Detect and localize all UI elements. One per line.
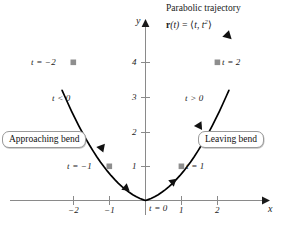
- trajectory-equation: r(t) = ⟨t, t2⟩: [166, 15, 241, 32]
- callout-approaching-bend: Approaching bend: [2, 131, 86, 148]
- x-axis-label: x: [268, 203, 273, 215]
- x-tick-label-2: 2: [215, 205, 220, 215]
- callout-leaving-bend: Leaving bend: [198, 131, 264, 148]
- figure-title: Parabolic trajectory: [166, 2, 241, 15]
- x-axis: [10, 196, 270, 205]
- x-tick-label--2: −2: [68, 205, 79, 215]
- plot-canvas: [0, 0, 282, 225]
- y-axis: [141, 19, 150, 215]
- figure-title-block: Parabolic trajectory r(t) = ⟨t, t2⟩: [166, 2, 241, 32]
- y-axis-label: y: [136, 15, 141, 27]
- y-tick-label-2: 2: [132, 127, 137, 137]
- direction-arrowheads: [96, 29, 233, 194]
- x-tick-label-1: 1: [179, 205, 184, 215]
- point-label-t-minus-2: t = −2: [31, 57, 56, 67]
- y-tick-label-3: 3: [132, 92, 137, 102]
- parabolic-trajectory-figure: Parabolic trajectory r(t) = ⟨t, t2⟩ y x …: [0, 0, 282, 225]
- x-tick-label--1: −1: [104, 205, 115, 215]
- point-label-t-minus-1: t = −1: [67, 161, 92, 171]
- point-label-t-zero: t = 0: [149, 203, 168, 213]
- equation-close-angle: ⟩: [208, 20, 212, 30]
- point-label-t-one: t = 1: [186, 161, 205, 171]
- point-label-t-two: t = 2: [222, 57, 241, 67]
- y-tick-label-1: 1: [132, 161, 137, 171]
- annotation-t-negative: t < 0: [52, 93, 71, 103]
- equation-argument: (t) =: [170, 20, 190, 30]
- y-tick-label-4: 4: [132, 57, 137, 67]
- annotation-t-positive: t > 0: [185, 93, 204, 103]
